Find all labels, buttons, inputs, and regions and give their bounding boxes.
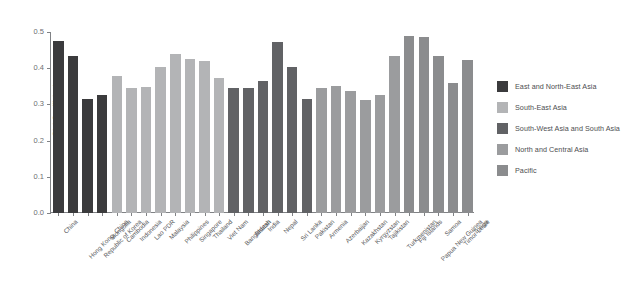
bar[interactable]: [141, 87, 152, 213]
x-axis-tick-mark: [263, 213, 264, 216]
x-axis-tick-mark: [307, 213, 308, 216]
y-axis-tick-label: 0.5: [22, 28, 44, 36]
legend-item[interactable]: South-East Asia: [497, 97, 637, 118]
x-axis-tick-mark: [351, 213, 352, 216]
bar[interactable]: [126, 88, 137, 213]
legend-label: Pacific: [515, 166, 537, 175]
bar-slot: [185, 32, 196, 213]
legend-swatch: [497, 123, 508, 134]
legend-label: North and Central Asia: [515, 145, 588, 154]
bar[interactable]: [375, 95, 386, 213]
bar[interactable]: [360, 100, 371, 213]
bar[interactable]: [331, 86, 342, 213]
bar[interactable]: [272, 42, 283, 213]
x-axis-tick-mark: [161, 213, 162, 216]
x-axis-tick-mark: [365, 213, 366, 216]
x-axis-tick-label: Samoa: [443, 218, 462, 237]
bar-slot: [97, 32, 108, 213]
bar-slot: [214, 32, 225, 213]
bar[interactable]: [185, 59, 196, 213]
bar-slot: [462, 32, 473, 213]
bar-slot: [112, 32, 123, 213]
x-axis-tick-mark: [131, 213, 132, 216]
x-axis-tick-label: China: [62, 218, 79, 235]
bar[interactable]: [214, 78, 225, 213]
bar-slot: [419, 32, 430, 213]
bar-slot: [170, 32, 181, 213]
bar[interactable]: [68, 56, 79, 213]
x-axis-tick-mark: [88, 213, 89, 216]
bar-slot: [345, 32, 356, 213]
bar-slot: [258, 32, 269, 213]
plot-area: [51, 32, 475, 213]
bar[interactable]: [258, 81, 269, 213]
legend: East and North-East AsiaSouth-East AsiaS…: [497, 76, 637, 181]
x-axis-tick-mark: [336, 213, 337, 216]
bar[interactable]: [170, 54, 181, 213]
bar-slot: [360, 32, 371, 213]
bar-slot: [433, 32, 444, 213]
bar[interactable]: [228, 88, 239, 213]
bar-slot: [272, 32, 283, 213]
x-axis-tick-label: Nepal: [282, 218, 299, 235]
x-axis-tick-mark: [278, 213, 279, 216]
x-axis-tick-mark: [468, 213, 469, 216]
bar-slot: [331, 32, 342, 213]
bar[interactable]: [389, 56, 400, 213]
legend-swatch: [497, 165, 508, 176]
bar[interactable]: [404, 36, 415, 213]
legend-swatch: [497, 81, 508, 92]
bar[interactable]: [199, 61, 210, 213]
bar[interactable]: [316, 88, 327, 213]
x-axis-tick-mark: [102, 213, 103, 216]
x-axis-tick-mark: [58, 213, 59, 216]
y-axis-tick-mark: [47, 213, 51, 214]
bar-slot: [82, 32, 93, 213]
legend-label: East and North-East Asia: [515, 82, 597, 91]
x-axis-tick-mark: [219, 213, 220, 216]
bar-slot: [316, 32, 327, 213]
bar-slot: [302, 32, 313, 213]
bar-slot: [53, 32, 64, 213]
bar-slot: [287, 32, 298, 213]
bar[interactable]: [345, 91, 356, 213]
bar[interactable]: [462, 60, 473, 213]
bar-slot: [389, 32, 400, 213]
bar[interactable]: [112, 76, 123, 213]
y-axis-tick-label: 0.3: [22, 100, 44, 108]
bar-slot: [199, 32, 210, 213]
bar-slot: [68, 32, 79, 213]
x-axis-tick-mark: [248, 213, 249, 216]
bar-slot: [155, 32, 166, 213]
bar[interactable]: [287, 67, 298, 213]
bar[interactable]: [302, 99, 313, 213]
bar-slot: [375, 32, 386, 213]
bar[interactable]: [82, 99, 93, 213]
bar[interactable]: [155, 67, 166, 213]
bar[interactable]: [419, 37, 430, 213]
bar-slot: [243, 32, 254, 213]
y-axis-tick-label: 0.0: [22, 209, 44, 217]
x-axis-tick-mark: [438, 213, 439, 216]
bar-slot: [404, 32, 415, 213]
x-axis-tick-mark: [424, 213, 425, 216]
legend-swatch: [497, 102, 508, 113]
y-axis-tick-label: 0.2: [22, 137, 44, 145]
bar[interactable]: [243, 88, 254, 213]
legend-item[interactable]: Pacific: [497, 160, 637, 181]
legend-item[interactable]: East and North-East Asia: [497, 76, 637, 97]
x-axis-tick-mark: [73, 213, 74, 216]
x-axis-tick-mark: [234, 213, 235, 216]
bar[interactable]: [97, 95, 108, 213]
legend-label: South-East Asia: [515, 103, 567, 112]
x-axis-tick-mark: [321, 213, 322, 216]
bar[interactable]: [53, 41, 64, 213]
x-axis-tick-mark: [205, 213, 206, 216]
legend-item[interactable]: South-West Asia and South Asia: [497, 118, 637, 139]
bar[interactable]: [433, 56, 444, 213]
y-axis-tick-label: 0.1: [22, 173, 44, 181]
x-axis-tick-mark: [380, 213, 381, 216]
x-axis-tick-mark: [190, 213, 191, 216]
bar[interactable]: [448, 83, 459, 213]
legend-item[interactable]: North and Central Asia: [497, 139, 637, 160]
